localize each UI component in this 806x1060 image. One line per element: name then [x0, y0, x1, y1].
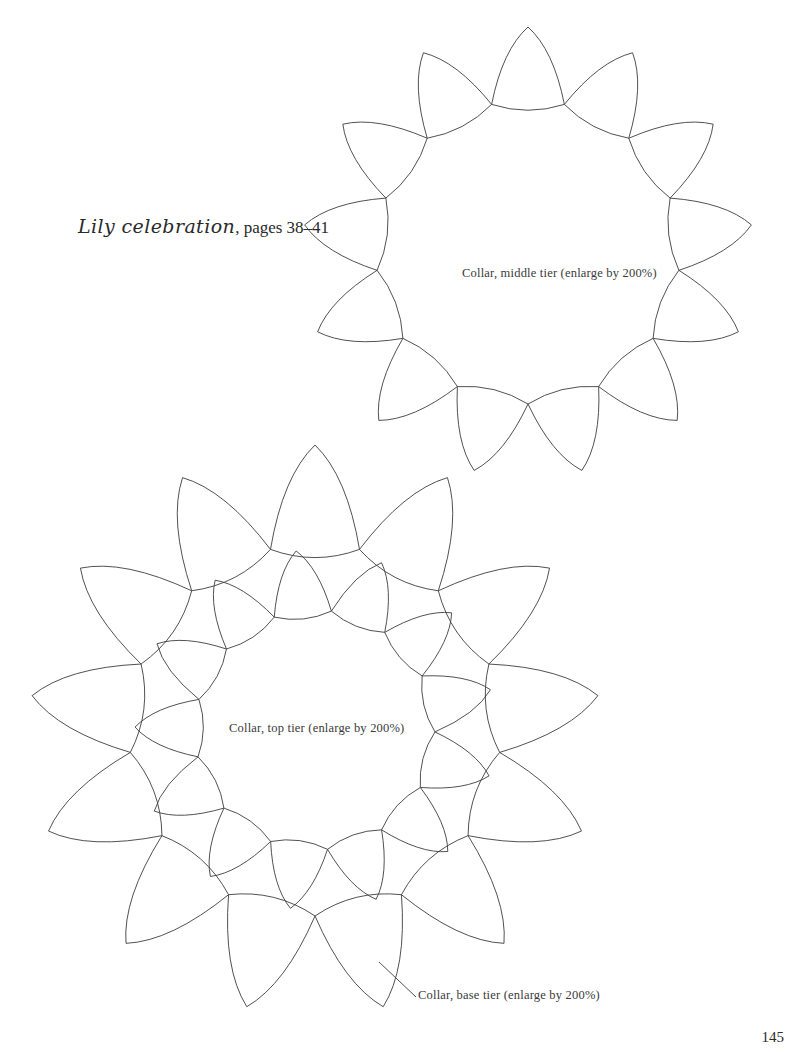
pattern-artwork [0, 0, 806, 1060]
petal [378, 338, 457, 420]
petal [653, 270, 738, 341]
petal [528, 386, 599, 470]
petal [468, 752, 581, 841]
petal [209, 808, 271, 876]
middle-tier-ring [305, 27, 752, 470]
petal [177, 478, 270, 591]
petal [485, 664, 598, 752]
label-collar-top-tier: Collar, top tier (enlarge by 200%) [229, 721, 404, 736]
petal [49, 752, 162, 841]
petal [80, 566, 191, 664]
petal [213, 580, 274, 649]
petal [599, 338, 678, 420]
petal [438, 566, 549, 664]
petal [385, 612, 452, 676]
petal [270, 445, 359, 558]
petal [492, 27, 565, 110]
petal [126, 836, 229, 944]
label-collar-middle-tier: Collar, middle tier (enlarge by 200%) [462, 266, 657, 281]
petal-rings-group [32, 27, 751, 1007]
base-tier-leader-line [379, 962, 416, 997]
petal [420, 732, 489, 788]
petal [274, 551, 331, 619]
petal [422, 676, 491, 732]
page-title: Lily celebration, pages 38–41 [78, 215, 329, 238]
page-number: 145 [762, 1029, 785, 1046]
petal [271, 840, 328, 908]
page-title-script: Lily celebration [78, 215, 235, 237]
petal [228, 894, 315, 1007]
petal [331, 563, 388, 633]
petal [382, 787, 448, 851]
page-title-pages: , pages 38–41 [235, 218, 329, 237]
petal [315, 894, 402, 1007]
petal [135, 699, 203, 756]
petal [418, 53, 491, 138]
label-collar-base-tier: Collar, base tier (enlarge by 200%) [418, 988, 600, 1003]
petal [32, 664, 145, 752]
petal [629, 122, 713, 198]
petal [328, 830, 385, 899]
petal [564, 53, 637, 138]
petal [157, 640, 226, 699]
petal [668, 198, 751, 270]
petal [401, 836, 504, 944]
petal [318, 270, 403, 341]
pattern-page: Lily celebration, pages 38–41 Collar, mi… [0, 0, 806, 1060]
petal [154, 757, 224, 815]
petal [343, 122, 427, 198]
petal [457, 386, 528, 470]
petal [360, 478, 453, 591]
